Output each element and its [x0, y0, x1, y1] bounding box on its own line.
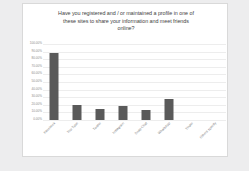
bar-slot — [43, 44, 66, 120]
x-axis-tick-label: Snap Chat — [135, 122, 149, 136]
bar[interactable] — [50, 53, 59, 120]
y-axis-tick-label: 50.00% — [32, 80, 43, 83]
y-axis-tick-label: 20.00% — [32, 103, 43, 106]
bar[interactable] — [73, 105, 82, 120]
x-axis-label-slot: Facebook — [43, 121, 66, 158]
bar-slot — [89, 44, 112, 120]
x-axis-label-slot: Instagram — [112, 121, 135, 158]
x-axis-label-slot: WhatsApp — [157, 121, 180, 158]
bar-slot — [203, 44, 226, 120]
x-axis-label-slot: Tinder — [180, 121, 203, 158]
y-axis-tick-label: 60.00% — [32, 73, 43, 76]
x-axis-tick-label: Twitter — [93, 122, 102, 131]
x-axis-label-slot: Twitter — [89, 121, 112, 158]
x-axis-label-slot: You Tube — [66, 121, 89, 158]
x-axis-tick-label: Instagram — [112, 122, 125, 135]
y-axis-tick-label: 100.00% — [30, 42, 42, 45]
bar-slot — [135, 44, 158, 120]
y-axis-tick-label: 80.00% — [32, 58, 43, 61]
y-axis-tick-label: 10.00% — [32, 111, 43, 114]
y-axis: 100.00%90.00%80.00%70.00%60.00%50.00%40.… — [23, 44, 43, 120]
bar[interactable] — [119, 106, 128, 120]
y-axis-tick-label: 90.00% — [32, 50, 43, 53]
x-axis-tick-label: WhatsApp — [158, 122, 171, 135]
bar-slot — [180, 44, 203, 120]
y-axis-tick-label: 0.00% — [33, 118, 42, 121]
bar-slot — [157, 44, 180, 120]
y-axis-tick-label: 70.00% — [32, 65, 43, 68]
x-axis-tick-label: You Tube — [67, 122, 79, 134]
x-axis-label-slot: Snap Chat — [135, 121, 158, 158]
bar-slot — [112, 44, 135, 120]
x-axis: FacebookYou TubeTwitterInstagramSnap Cha… — [43, 121, 226, 158]
plot-wrapper: 100.00%90.00%80.00%70.00%60.00%50.00%40.… — [23, 4, 229, 158]
bar-series — [43, 44, 226, 120]
bar[interactable] — [96, 109, 105, 120]
y-axis-tick-label: 30.00% — [32, 96, 43, 99]
bar-slot — [66, 44, 89, 120]
x-axis-tick-label: Facebook — [44, 122, 57, 135]
bar[interactable] — [164, 99, 173, 120]
y-axis-tick-label: 40.00% — [32, 88, 43, 91]
plot-area — [43, 44, 226, 121]
x-axis-label-slot: Others specify — [203, 121, 226, 158]
chart-card: Have you registered and / or maintained … — [22, 3, 228, 157]
bar[interactable] — [141, 110, 150, 120]
x-axis-tick-label: Tinder — [185, 122, 194, 131]
